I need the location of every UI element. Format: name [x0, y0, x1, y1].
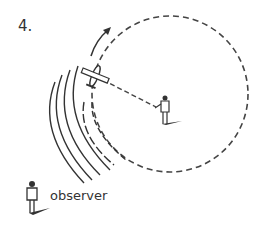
airplane-icon	[78, 61, 113, 93]
figure-number: 4.	[18, 17, 32, 35]
pilot-figure-icon	[155, 96, 182, 126]
sound-waves	[50, 66, 126, 183]
flight-path-circle	[92, 16, 248, 172]
observer-label: observer	[50, 188, 107, 203]
direction-arrow-icon	[91, 27, 111, 56]
diagram-canvas	[0, 0, 269, 234]
control-line	[103, 80, 156, 107]
observer-figure-icon	[27, 181, 50, 215]
